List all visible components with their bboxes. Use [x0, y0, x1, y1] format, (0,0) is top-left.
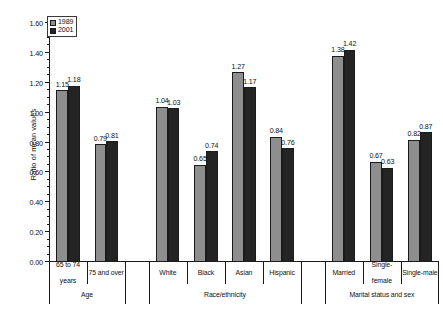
bar-value-label: 0.74 — [201, 142, 223, 150]
category-cell-white: White — [149, 262, 187, 284]
bar-value-label: 1.03 — [163, 99, 185, 107]
y-tick-major — [45, 142, 50, 143]
plot-area: 0.000.200.400.600.801.001.201.401.60 1.1… — [49, 23, 439, 262]
y-tick-minor — [47, 224, 50, 225]
y-tick-minor — [47, 134, 50, 135]
bar-2001-single-male — [420, 132, 432, 262]
group-label-marital-status-and-sex: Marital status and sex — [325, 284, 439, 304]
y-tick-major — [45, 231, 50, 232]
category-separator — [363, 262, 364, 284]
bar-value-label: 1.18 — [63, 76, 85, 84]
category-label-line: Single- — [371, 261, 392, 269]
bar-2001-single-female — [382, 168, 394, 262]
legend-item-1989: 1989 — [50, 19, 73, 26]
category-separator — [187, 262, 188, 284]
y-tick-minor — [47, 209, 50, 210]
bar-value-label: 0.81 — [101, 132, 123, 140]
category-label-line: White — [159, 269, 176, 277]
bar-1989-white — [156, 107, 168, 262]
category-cell-75-and-over: 75 and over — [87, 262, 125, 284]
legend-label-2001: 2001 — [58, 27, 73, 34]
bar-1989-65-to-74-years — [56, 90, 68, 262]
y-tick-major — [45, 52, 50, 53]
y-tick-minor — [47, 89, 50, 90]
bar-2001-married — [344, 50, 356, 262]
bar-1989-black — [194, 165, 206, 262]
bar-2001-white — [168, 108, 180, 262]
legend: 1989 2001 — [47, 16, 77, 37]
category-axis-table: 65 to 74years75 and overWhiteBlackAsianH… — [49, 262, 439, 306]
bar-1989-asian — [232, 72, 244, 262]
legend-label-1989: 1989 — [58, 19, 73, 26]
bar-value-label: 0.87 — [415, 123, 437, 131]
y-tick-minor — [47, 164, 50, 165]
y-tick-minor — [47, 186, 50, 187]
group-separator — [301, 262, 302, 304]
y-tick-major — [45, 82, 50, 83]
category-cell-single-male: Single-male — [401, 262, 439, 284]
y-tick-minor — [47, 246, 50, 247]
y-tick-label: 1.00 — [29, 108, 43, 117]
y-tick-minor — [47, 239, 50, 240]
bar-chart: Ratio of mean values 0.000.200.400.600.8… — [0, 0, 443, 311]
category-cell-65-to-74-years: 65 to 74years — [49, 262, 87, 284]
group-label-age: Age — [49, 284, 125, 304]
category-label-line: Married — [332, 269, 355, 277]
category-separator — [263, 262, 264, 284]
y-tick-label: 0.80 — [29, 138, 43, 147]
bar-value-label: 0.76 — [277, 139, 299, 147]
y-tick-label: 0.20 — [29, 228, 43, 237]
y-tick-label: 0.60 — [29, 168, 43, 177]
bar-value-label: 1.17 — [239, 78, 261, 86]
category-cell-single-female: Single-female — [363, 262, 401, 284]
y-tick-minor — [47, 119, 50, 120]
y-tick-minor — [47, 37, 50, 38]
category-label-line: Asian — [236, 269, 253, 277]
y-tick-minor — [47, 179, 50, 180]
y-tick-minor — [47, 44, 50, 45]
y-tick-minor — [47, 104, 50, 105]
y-tick-label: 1.40 — [29, 48, 43, 57]
bar-2001-75-and-over — [106, 141, 118, 262]
y-tick-minor — [47, 194, 50, 195]
y-tick-minor — [47, 67, 50, 68]
y-tick-minor — [47, 127, 50, 128]
category-label-line: Single-male — [402, 269, 437, 277]
y-tick-label: 1.60 — [29, 19, 43, 28]
legend-swatch-1989-icon — [50, 20, 56, 26]
bar-value-label: 0.63 — [377, 158, 399, 166]
category-label-line: 65 to 74 — [56, 261, 80, 269]
y-tick-minor — [47, 74, 50, 75]
bar-value-label: 1.42 — [339, 40, 361, 48]
bar-1989-hispanic — [270, 137, 282, 262]
category-cell-married: Married — [325, 262, 363, 284]
category-cell-black: Black — [187, 262, 225, 284]
group-label-race-ethnicity: Race/ethnicity — [149, 284, 301, 304]
bar-1989-75-and-over — [95, 144, 107, 262]
bar-2001-asian — [244, 87, 256, 262]
bar-value-label: 1.27 — [227, 63, 249, 71]
y-tick-minor — [47, 216, 50, 217]
y-tick-major — [45, 112, 50, 113]
y-tick-minor — [47, 59, 50, 60]
category-separator — [401, 262, 402, 284]
legend-item-2001: 2001 — [50, 27, 73, 34]
category-label-line: Black — [198, 269, 214, 277]
y-tick-label: 1.20 — [29, 78, 43, 87]
y-tick-minor — [47, 254, 50, 255]
category-cell-asian: Asian — [225, 262, 263, 284]
bar-2001-hispanic — [282, 148, 294, 262]
category-separator — [87, 262, 88, 284]
y-tick-major — [45, 171, 50, 172]
y-tick-label: 0.40 — [29, 198, 43, 207]
bar-1989-single-female — [370, 162, 382, 262]
bar-2001-65-to-74-years — [68, 86, 80, 262]
category-label-line: Hispanic — [269, 269, 295, 277]
category-separator — [225, 262, 226, 284]
y-tick-label: 0.00 — [29, 258, 43, 267]
y-tick-major — [45, 201, 50, 202]
bar-1989-single-male — [408, 140, 420, 262]
bar-1989-married — [332, 56, 344, 262]
y-tick-minor — [47, 97, 50, 98]
bar-2001-black — [206, 151, 218, 262]
